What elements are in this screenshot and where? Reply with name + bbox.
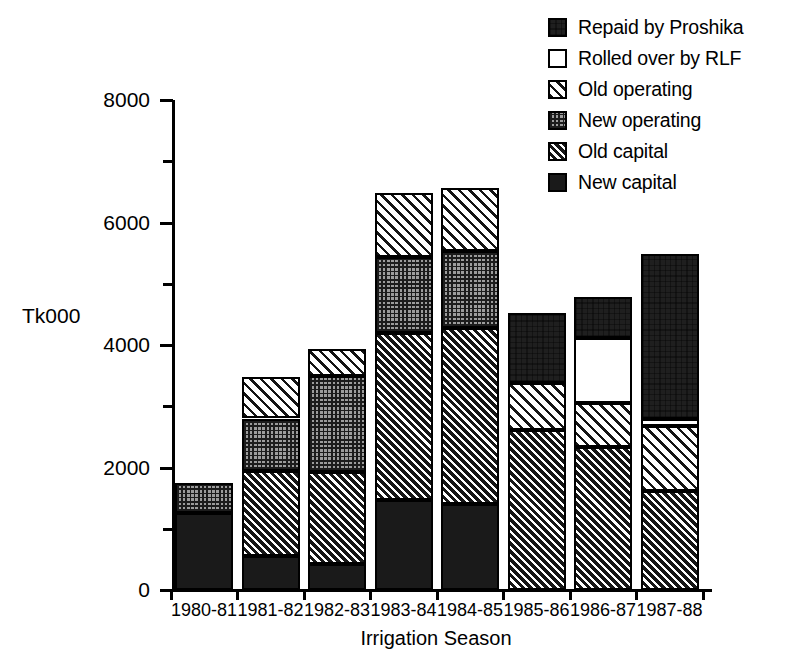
bar-segment-old-operating[interactable] [574,403,632,447]
x-axis-tick-label: 1984-85 [435,600,505,620]
bar-segment-old-operating[interactable] [508,383,566,430]
bar-segment-old-capital[interactable] [508,430,566,590]
x-axis-tick [702,589,705,600]
y-axis-tick [160,99,173,102]
legend-item[interactable]: Repaid by Proshika [548,12,798,43]
bar-segment-old-operating[interactable] [375,193,433,257]
bar-segment-old-operating[interactable] [441,188,499,250]
y-axis-tick [160,467,173,470]
legend-swatch-new-capital [548,173,567,192]
legend-item-label: New capital [578,173,677,193]
y-axis-minor-tick [163,283,173,286]
bar-segment-new-capital[interactable] [441,504,499,590]
x-axis-tick [303,589,306,600]
y-axis-tick [160,344,173,347]
bar-1984-85[interactable] [441,100,499,590]
x-axis-tick [369,589,372,600]
x-axis-tick-label: 1985-86 [502,600,572,620]
bar-segment-new-operating[interactable] [308,376,366,472]
y-axis-minor-tick [163,160,173,163]
bar-1982-83[interactable] [308,100,366,590]
bar-segment-old-operating[interactable] [641,426,699,491]
legend-item[interactable]: Old capital [548,136,798,167]
bar-segment-new-capital[interactable] [375,500,433,590]
y-axis-tick-label: 2000 [64,457,150,478]
x-axis-tick-label: 1986-87 [568,600,638,620]
y-axis-tick [160,222,173,225]
bar-segment-old-capital[interactable] [242,471,300,557]
x-axis-tick-label: 1981-82 [236,600,306,620]
bar-1981-82[interactable] [242,100,300,590]
legend-swatch-repaid-by-proshika [548,18,567,37]
legend-swatch-old-operating [548,80,567,99]
legend-item-label: Repaid by Proshika [578,18,744,38]
y-axis-tick-label: 0 [64,579,150,600]
y-axis-tick-label: 4000 [64,334,150,355]
bar-segment-old-operating[interactable] [242,377,300,419]
x-axis-tick-label: 1987-88 [635,600,705,620]
x-axis-tick [569,589,572,600]
x-axis-tick [236,589,239,600]
x-axis-tick-label: 1983-84 [369,600,439,620]
bar-segment-new-capital[interactable] [242,556,300,590]
bar-segment-new-operating[interactable] [175,483,233,514]
bar-segment-old-capital[interactable] [441,328,499,504]
bar-segment-new-operating[interactable] [441,251,499,329]
y-axis-tick-label: 8000 [64,89,150,110]
x-axis-tick [635,589,638,600]
legend-item[interactable]: New capital [548,167,798,198]
y-axis-title: Tk000 [22,305,80,326]
x-axis-tick [170,589,173,600]
y-axis-tick-label: 6000 [64,212,150,233]
bar-segment-old-capital[interactable] [574,447,632,590]
bar-segment-repaid-by-proshika[interactable] [508,313,566,383]
bar-segment-new-operating[interactable] [375,257,433,332]
legend-swatch-new-operating [548,111,567,130]
bar-segment-rolled-over-by-rlf[interactable] [641,419,699,426]
legend-item[interactable]: Old operating [548,74,798,105]
bar-1983-84[interactable] [375,100,433,590]
legend-swatch-rolled-over-by-rlf [548,49,567,68]
legend-item-label: Rolled over by RLF [578,49,741,69]
chart-legend: Repaid by ProshikaRolled over by RLFOld … [548,12,798,198]
x-axis-tick-label: 1980-81 [169,600,239,620]
bar-segment-repaid-by-proshika[interactable] [641,254,699,419]
bar-segment-repaid-by-proshika[interactable] [574,297,632,337]
bar-segment-old-capital[interactable] [375,333,433,500]
bar-segment-new-capital[interactable] [308,564,366,590]
y-axis-minor-tick [163,405,173,408]
y-axis-minor-tick [163,528,173,531]
legend-item[interactable]: Rolled over by RLF [548,43,798,74]
bar-segment-old-capital[interactable] [641,491,699,590]
bar-1980-81[interactable] [175,100,233,590]
x-axis-tick-label: 1982-83 [302,600,372,620]
bar-segment-new-operating[interactable] [242,419,300,471]
legend-item-label: Old operating [578,80,692,100]
bar-segment-rolled-over-by-rlf[interactable] [574,338,632,403]
bar-segment-old-operating[interactable] [308,349,366,376]
x-axis-title: Irrigation Season [160,628,712,648]
bar-segment-new-capital[interactable] [175,513,233,590]
bar-segment-old-capital[interactable] [308,472,366,564]
x-axis-tick [502,589,505,600]
legend-item-label: New operating [578,111,701,131]
x-axis-tick [436,589,439,600]
legend-item[interactable]: New operating [548,105,798,136]
legend-swatch-old-capital [548,142,567,161]
legend-item-label: Old capital [578,142,668,162]
